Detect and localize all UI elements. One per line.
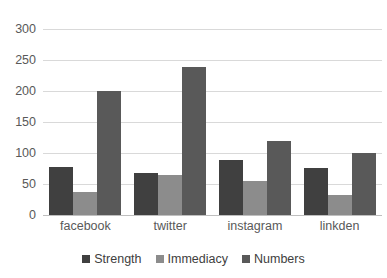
bars-layer bbox=[43, 29, 382, 215]
bar-group-twitter bbox=[128, 29, 213, 215]
bar-facebook-strength[interactable] bbox=[49, 167, 73, 215]
bar-group-instagram bbox=[213, 29, 298, 215]
y-tick-label: 200 bbox=[15, 85, 36, 98]
bar-instagram-numbers[interactable] bbox=[267, 141, 291, 215]
legend-swatch-icon bbox=[156, 255, 164, 263]
bar-linkden-numbers[interactable] bbox=[352, 153, 376, 215]
bar-facebook-immediacy[interactable] bbox=[73, 192, 97, 215]
x-tick-label-linkden: linkden bbox=[297, 219, 382, 233]
bar-twitter-immediacy[interactable] bbox=[158, 175, 182, 215]
chart-legend: StrengthImmediacyNumbers bbox=[0, 252, 387, 266]
legend-item-numbers[interactable]: Numbers bbox=[242, 252, 305, 266]
y-tick-label: 0 bbox=[29, 209, 36, 222]
x-tick-label-facebook: facebook bbox=[43, 219, 128, 233]
y-tick-label: 300 bbox=[15, 23, 36, 36]
legend-swatch-icon bbox=[82, 255, 90, 263]
x-tick-label-twitter: twitter bbox=[128, 219, 213, 233]
bar-group-linkden bbox=[297, 29, 382, 215]
y-tick-label: 100 bbox=[15, 147, 36, 160]
bar-linkden-immediacy[interactable] bbox=[328, 195, 352, 215]
legend-item-immediacy[interactable]: Immediacy bbox=[156, 252, 228, 266]
legend-label: Strength bbox=[94, 252, 141, 266]
bar-linkden-strength[interactable] bbox=[304, 168, 328, 215]
bar-chart: 300250200150100500 facebooktwitterinstag… bbox=[0, 0, 387, 278]
bar-twitter-strength[interactable] bbox=[134, 173, 158, 215]
chart-title-cropped bbox=[6, 0, 126, 4]
bar-group-facebook bbox=[43, 29, 128, 215]
bar-facebook-numbers[interactable] bbox=[97, 91, 121, 215]
legend-swatch-icon bbox=[242, 255, 250, 263]
x-tick-label-instagram: instagram bbox=[213, 219, 298, 233]
y-tick-label: 250 bbox=[15, 54, 36, 67]
bar-instagram-immediacy[interactable] bbox=[243, 181, 267, 215]
legend-item-strength[interactable]: Strength bbox=[82, 252, 141, 266]
legend-label: Numbers bbox=[254, 252, 305, 266]
bar-twitter-numbers[interactable] bbox=[182, 67, 206, 215]
x-axis: facebooktwitterinstagramlinkden bbox=[43, 219, 382, 233]
y-axis: 300250200150100500 bbox=[0, 29, 36, 215]
y-tick-label: 50 bbox=[22, 178, 36, 191]
bar-instagram-strength[interactable] bbox=[219, 160, 243, 215]
gridline-0 bbox=[43, 215, 382, 216]
legend-label: Immediacy bbox=[168, 252, 228, 266]
y-tick-label: 150 bbox=[15, 116, 36, 129]
